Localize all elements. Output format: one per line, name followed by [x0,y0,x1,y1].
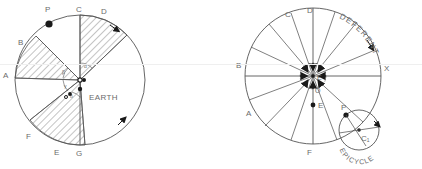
label-e-lower: E [318,101,323,110]
planet-marker-p [45,20,52,27]
angle-label-alpha: α [84,63,87,69]
label-a: A [3,71,9,80]
label-e-center: E [317,74,322,81]
radius-1 [291,13,313,76]
label-f: F [26,132,31,141]
label-d: D [307,6,313,15]
earth-marker [78,87,82,91]
radius-10 [313,22,357,76]
sector-ef-hatched [30,80,85,145]
figure-pair: α β γ δ P C D B A F E G EARTH [0,0,422,169]
radius-4 [249,76,313,100]
label-x: X [384,64,390,73]
label-d: D [101,7,107,16]
angle-label-gamma: γ [64,83,67,89]
motion-arrow-bottom [118,119,124,125]
label-a: A [246,109,252,118]
label-b: B [18,38,23,47]
radius-6 [291,76,313,140]
sector-cd-hatched [80,15,127,80]
label-earth: EARTH [89,93,118,102]
label-c: C [76,5,82,14]
radius-9 [313,50,375,76]
radius-3 [251,47,313,76]
radius-2 [269,24,313,76]
label-b: B [236,61,241,70]
right-diagram-panel: DEFERENT EPICYCLE D C B X A F O E E P C₁ [211,0,422,169]
label-deferent: DEFERENT [338,12,381,57]
label-g: G [76,149,82,158]
earth-marker-e [311,103,316,108]
label-f: F [307,148,312,157]
left-diagram-panel: α β γ δ P C D B A F E G EARTH [0,0,211,169]
equant-point-marker [78,78,82,82]
label-p: P [45,5,50,14]
label-c: C [285,10,291,19]
angle-label-beta: β [62,69,65,75]
label-c1: C₁ [361,134,370,143]
auxiliary-marker-1 [68,92,72,96]
sector-ab-hatched [15,36,80,80]
label-e: E [54,148,59,157]
center-point-marker [82,78,86,82]
radius-7 [313,76,337,140]
right-diagram-svg: DEFERENT EPICYCLE D C B X A F O E E P C₁ [211,0,422,169]
epicycle-chord [339,127,379,133]
left-diagram-svg: α β γ δ P C D B A F E G EARTH [0,0,211,169]
auxiliary-marker-2 [65,96,68,99]
radius-11 [313,12,335,76]
label-p: P [341,103,346,112]
label-o: O [315,87,321,94]
deferent-center-marker [311,74,315,78]
